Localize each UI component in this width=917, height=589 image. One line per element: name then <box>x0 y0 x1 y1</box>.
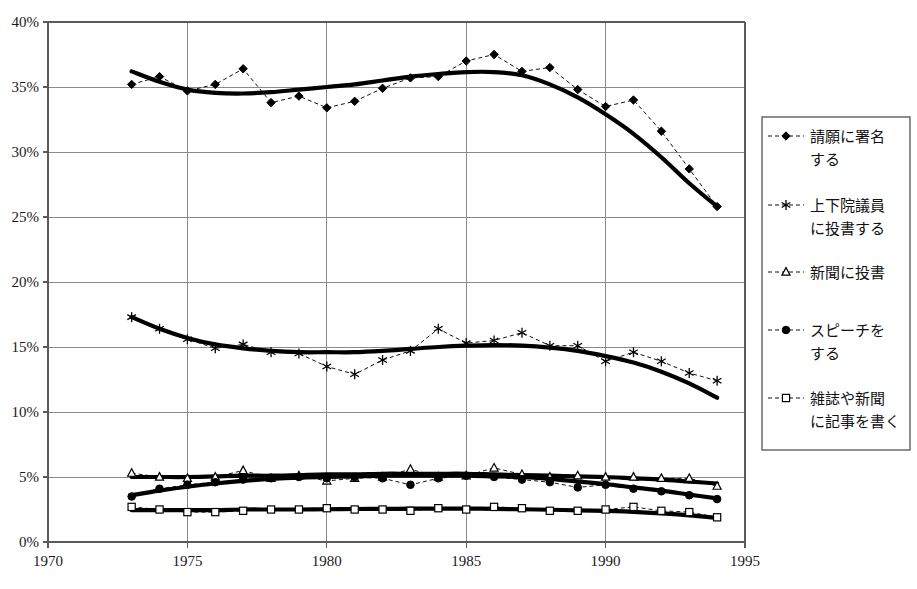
marker-diamond <box>685 165 693 173</box>
marker-circle <box>685 491 693 499</box>
series-trend-line <box>132 71 717 206</box>
series-group <box>127 50 721 521</box>
marker-triangle <box>239 466 247 474</box>
marker-circle <box>518 476 526 484</box>
marker-square <box>379 506 386 513</box>
marker-square <box>782 394 789 401</box>
marker-square <box>435 505 442 512</box>
marker-asterisk <box>657 356 666 366</box>
marker-diamond <box>546 63 554 71</box>
legend: 請願に署名する上下院議員に投書する新聞に投書スピーチをする雑誌や新聞に記事を書く <box>762 117 910 450</box>
marker-circle <box>295 473 303 481</box>
y-axis-tick-label: 35% <box>12 79 40 95</box>
marker-asterisk <box>434 324 443 334</box>
y-axis-tick-label: 0% <box>19 534 39 550</box>
marker-square <box>407 507 414 514</box>
marker-square <box>295 506 302 513</box>
legend-label-line2: に投書する <box>810 221 885 237</box>
y-axis-tick-label: 10% <box>12 404 40 420</box>
series-1 <box>127 50 721 211</box>
marker-circle <box>602 481 610 489</box>
marker-square <box>602 506 609 513</box>
marker-circle <box>713 495 721 503</box>
y-axis-labels: 0%5%10%15%20%25%30%35%40% <box>12 14 49 550</box>
marker-square <box>184 509 191 516</box>
legend-label-line1: 新聞に投書 <box>810 265 885 281</box>
marker-square <box>128 503 135 510</box>
marker-square <box>518 505 525 512</box>
marker-circle <box>323 475 331 483</box>
marker-circle <box>379 475 387 483</box>
series-trend-line <box>132 317 717 398</box>
marker-circle <box>128 493 136 501</box>
legend-label-line2: する <box>810 152 840 168</box>
x-axis-labels: 197019751980198519901995 <box>33 542 760 569</box>
y-axis-tick-label: 20% <box>12 274 40 290</box>
marker-triangle <box>406 465 414 473</box>
marker-asterisk <box>322 362 331 372</box>
marker-square <box>658 507 665 514</box>
marker-asterisk <box>713 376 722 386</box>
legend-label-line1: 請願に署名 <box>810 129 885 145</box>
y-axis-tick-label: 30% <box>12 144 40 160</box>
marker-asterisk <box>629 347 638 357</box>
marker-triangle <box>128 469 136 477</box>
marker-square <box>463 506 470 513</box>
marker-circle <box>462 472 470 480</box>
marker-square <box>240 507 247 514</box>
marker-circle <box>435 475 443 483</box>
x-axis-tick-label: 1975 <box>172 553 202 569</box>
y-axis-tick-label: 5% <box>19 469 39 485</box>
marker-square <box>630 503 637 510</box>
legend-label-line1: 雑誌や新聞 <box>810 391 885 407</box>
y-axis-tick-label: 15% <box>12 339 40 355</box>
legend-label-line1: 上下院議員 <box>810 197 885 214</box>
marker-circle <box>574 484 582 492</box>
marker-circle <box>351 473 359 481</box>
x-axis-tick-label: 1995 <box>730 553 760 569</box>
x-axis-tick-label: 1990 <box>591 553 621 569</box>
marker-square <box>351 506 358 513</box>
marker-triangle <box>490 464 498 472</box>
legend-label-line1: スピーチを <box>810 323 885 339</box>
marker-diamond <box>378 84 386 92</box>
marker-square <box>546 507 553 514</box>
y-axis-tick-label: 40% <box>12 14 40 30</box>
marker-diamond <box>601 102 609 110</box>
marker-triangle <box>685 474 693 482</box>
marker-circle <box>184 481 192 489</box>
marker-diamond <box>267 98 275 106</box>
marker-diamond <box>323 104 331 112</box>
x-axis-tick-label: 1980 <box>312 553 342 569</box>
marker-square <box>323 505 330 512</box>
marker-asterisk <box>350 369 359 379</box>
marker-diamond <box>239 65 247 73</box>
x-axis-tick-label: 1970 <box>33 553 63 569</box>
marker-square <box>490 503 497 510</box>
series-2 <box>127 312 721 398</box>
series-5 <box>128 503 721 521</box>
marker-circle <box>658 488 666 496</box>
marker-circle <box>407 481 415 489</box>
marker-circle <box>782 326 790 334</box>
marker-square <box>714 514 721 521</box>
marker-square <box>267 506 274 513</box>
marker-asterisk <box>685 368 694 378</box>
marker-asterisk <box>378 355 387 365</box>
marker-circle <box>630 485 638 493</box>
marker-circle <box>156 485 164 493</box>
y-axis-tick-label: 25% <box>12 209 40 225</box>
legend-label-line2: する <box>810 346 840 362</box>
marker-circle <box>239 476 247 484</box>
gridlines-group <box>48 22 745 542</box>
marker-diamond <box>350 97 358 105</box>
marker-circle <box>546 478 554 486</box>
marker-square <box>574 507 581 514</box>
marker-diamond <box>462 57 470 65</box>
marker-diamond <box>295 92 303 100</box>
marker-circle <box>490 473 498 481</box>
marker-square <box>156 506 163 513</box>
marker-square <box>212 509 219 516</box>
line-chart: 0%5%10%15%20%25%30%35%40%197019751980198… <box>0 0 917 589</box>
chart-container: 0%5%10%15%20%25%30%35%40%197019751980198… <box>0 0 917 589</box>
